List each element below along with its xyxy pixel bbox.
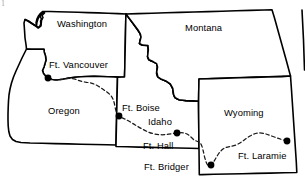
fort-label-ft-boise: Ft. Boise [122, 103, 160, 112]
state-label-montana: Montana [185, 23, 222, 32]
fort-dot-ft-boise [116, 113, 123, 120]
fort-label-ft-vancouver: Ft. Vancouver [49, 60, 108, 69]
fort-dot-ft-hall [174, 130, 181, 137]
east-edge-clip-line [302, 10, 305, 70]
state-label-idaho: Idaho [148, 117, 172, 126]
map-canvas: 1 Washington Oregon Idaho Montana [0, 0, 305, 183]
state-label-wyoming: Wyoming [224, 108, 264, 117]
fort-label-ft-laramie: Ft. Laramie [238, 151, 287, 160]
fort-label-ft-hall: Ft. Hall [143, 141, 174, 150]
fort-dot-ft-bridger [208, 162, 215, 169]
fort-label-ft-bridger: Ft. Bridger [144, 162, 189, 171]
fort-dot-ft-laramie [284, 138, 291, 145]
state-label-washington: Washington [57, 19, 107, 28]
state-label-oregon: Oregon [48, 106, 80, 115]
fort-dot-ft-vancouver [45, 75, 52, 82]
